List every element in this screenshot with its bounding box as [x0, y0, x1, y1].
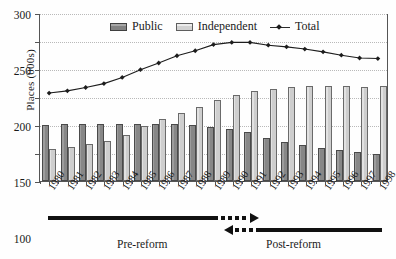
total-line-marker: [193, 48, 198, 53]
total-line-marker: [302, 47, 307, 52]
total-line-marker: [229, 40, 234, 45]
legend-line-marker-icon: [270, 23, 290, 31]
total-line-marker: [65, 88, 70, 93]
pre-reform-solid-bar: [48, 216, 218, 220]
total-line-marker: [339, 53, 344, 58]
y-axis-tick-label: 150: [14, 177, 31, 189]
legend-item-public: Public: [110, 19, 163, 34]
legend-swatch-independent-icon: [176, 23, 193, 31]
legend-item-total: Total: [270, 19, 320, 34]
legend-label-total: Total: [295, 19, 320, 34]
total-line-marker: [83, 85, 88, 90]
chart-legend: Public Independent Total: [110, 19, 319, 34]
x-axis-minor-tick: [40, 181, 41, 184]
legend-label-independent: Independent: [198, 19, 257, 34]
total-line-marker: [102, 81, 107, 86]
total-line-marker: [156, 61, 161, 66]
total-line-marker: [357, 56, 362, 61]
y-axis-tick-label: 200: [14, 121, 31, 133]
y-axis-tick-label: 300: [14, 9, 31, 21]
chart-figure: Places (000s) 050100150200250300 1980198…: [0, 0, 396, 259]
total-line-marker: [248, 40, 253, 45]
y-axis-tick-label: 250: [14, 65, 31, 77]
legend-label-public: Public: [132, 19, 163, 34]
total-line-marker: [175, 53, 180, 58]
post-reform-solid-bar: [256, 228, 382, 232]
total-line-marker: [284, 44, 289, 49]
total-line-marker: [120, 75, 125, 80]
post-reform-dashed-segment: [235, 228, 253, 232]
total-line-marker: [47, 91, 52, 96]
post-reform-label: Post-reform: [266, 238, 321, 250]
total-line-path: [49, 42, 378, 93]
total-line-marker: [138, 67, 143, 72]
total-line-marker: [375, 56, 380, 61]
total-line-marker: [266, 43, 271, 48]
pre-reform-arrow-right-icon: [250, 213, 259, 223]
total-line-marker: [321, 49, 326, 54]
total-line-series: [40, 14, 387, 181]
post-reform-arrow-left-icon: [224, 225, 233, 235]
pre-reform-label: Pre-reform: [117, 238, 167, 250]
total-line-marker: [211, 42, 216, 47]
plot-area: 050100150200250300: [39, 14, 388, 182]
y-axis-tick-label: 100: [14, 233, 31, 245]
pre-reform-dashed-segment: [221, 216, 246, 220]
legend-swatch-public-icon: [110, 23, 127, 31]
legend-item-independent: Independent: [176, 19, 257, 34]
